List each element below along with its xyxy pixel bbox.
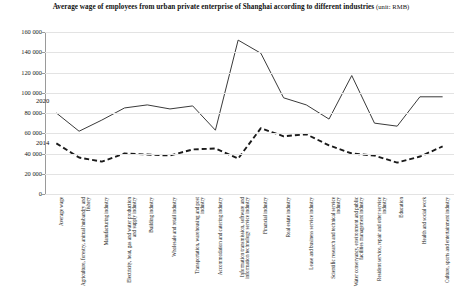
y-axis-tick-label: 100 000 [1,89,45,96]
y-axis-tick-label: 140 000 [1,48,45,55]
x-axis-category-label: Financial industry [263,197,268,289]
x-axis-category-label: Health and social work [422,197,427,289]
x-axis-category-label: Lease and business service industry [309,197,314,289]
y-axis-tick-label: 160 000 [1,28,45,35]
x-axis-category-label: Education [399,197,404,289]
series-label-2014: 2014 [36,139,49,146]
x-axis-category-label: Water conservancy, environment and publi… [354,197,365,289]
series-label-2020: 2020 [36,97,49,104]
x-axis-category-label: Building industry [149,197,154,289]
y-axis-tick-label: 40 000 [1,150,45,157]
y-axis-tick-label: 20 000 [1,170,45,177]
y-axis: 160 000140 000120 000100 00080 00060 000… [0,32,45,195]
x-axis-category-label: Wholesale and retail industry [172,197,177,289]
x-axis-labels: Average wageAgriculture, forestry, anima… [45,197,454,291]
gridline [45,52,454,53]
gridline [45,133,454,134]
chart-title: Average wage of employees from urban pri… [0,2,462,12]
x-axis-category-label: Information transmission, software and i… [240,197,251,289]
x-axis-category-label: Average wage [59,197,64,289]
y-axis-tick-label: 0 [1,190,45,197]
y-axis-tick-label: 120 000 [1,69,45,76]
chart-title-text: Average wage of employees from urban pri… [53,3,374,11]
gridline [45,113,454,114]
y-axis-tick-label: 80 000 [1,109,45,116]
x-axis-category-label: Transportation, warehousing and post ind… [195,197,206,289]
series-line-2020 [56,40,442,131]
x-axis-category-label: Electricity, heat, gas and water product… [127,197,138,289]
x-axis-category-label: Real estate industry [286,197,291,289]
gridline [45,174,454,175]
x-axis-category-label: Culture, sports and entertainment indust… [445,197,450,289]
gridline [45,194,454,195]
x-axis-category-label: Resident service, repair and other servi… [377,197,388,289]
gridline [45,73,454,74]
plot-area [45,32,454,194]
x-axis-category-label: Scientific research and technical servic… [331,197,342,289]
gridline [45,93,454,94]
x-axis-category-label: Accommodation and catering industry [218,197,223,289]
gridline [45,154,454,155]
x-axis-category-label: Manufacturing industry [104,197,109,289]
chart-title-unit: (unit: RMB) [376,3,409,10]
gridline [45,32,454,33]
x-axis-category-label: Agriculture, forestry, animal husbandry … [81,197,92,289]
chart-container: Average wage of employees from urban pri… [0,0,462,291]
y-axis-tick-label: 60 000 [1,129,45,136]
